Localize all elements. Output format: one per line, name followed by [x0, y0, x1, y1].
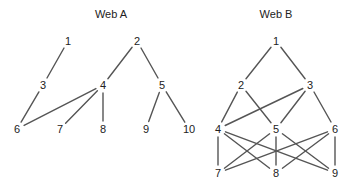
web-a-graph: 12345678910 Web A: [14, 8, 195, 135]
node-4: 4: [100, 79, 106, 91]
edge-5-10: [166, 92, 185, 122]
edge-2-5: [141, 48, 158, 78]
web-a-title: Web A: [95, 8, 128, 20]
edge-2-4: [222, 92, 238, 122]
node-6: 6: [332, 123, 338, 135]
node-9: 9: [332, 167, 338, 179]
web-b-graph: 123456789 Web B: [215, 8, 338, 179]
node-8: 8: [100, 123, 106, 135]
edge-3-5: [281, 91, 305, 122]
food-web-diagram: 12345678910 Web A 123456789 Web B: [0, 0, 352, 190]
node-5: 5: [273, 123, 279, 135]
node-1: 1: [273, 35, 279, 47]
node-5: 5: [159, 79, 165, 91]
web-b-edges: [218, 47, 335, 170]
edge-1-3: [47, 48, 64, 78]
node-3: 3: [40, 79, 46, 91]
web-a-nodes: 12345678910: [14, 35, 195, 135]
web-b-title: Web B: [260, 8, 293, 20]
edge-3-6: [314, 92, 331, 122]
node-8: 8: [273, 167, 279, 179]
node-9: 9: [143, 123, 149, 135]
edge-2-5: [246, 91, 271, 122]
edge-4-6: [24, 89, 96, 126]
edge-1-2: [246, 47, 271, 78]
node-2: 2: [134, 35, 140, 47]
node-6: 6: [14, 123, 20, 135]
node-2: 2: [238, 79, 244, 91]
node-1: 1: [65, 35, 71, 47]
edge-1-3: [281, 47, 305, 78]
edge-3-6: [21, 92, 39, 122]
edge-5-9: [149, 93, 160, 122]
node-7: 7: [57, 123, 63, 135]
node-3: 3: [307, 79, 313, 91]
edge-2-4: [108, 47, 132, 78]
node-4: 4: [215, 123, 221, 135]
node-7: 7: [215, 167, 221, 179]
node-10: 10: [183, 123, 195, 135]
